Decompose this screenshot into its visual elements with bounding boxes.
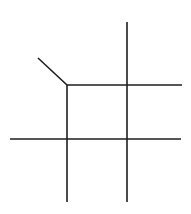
diagram-canvas (0, 0, 191, 214)
diagonal-line (38, 58, 67, 85)
line-diagram (0, 0, 191, 214)
